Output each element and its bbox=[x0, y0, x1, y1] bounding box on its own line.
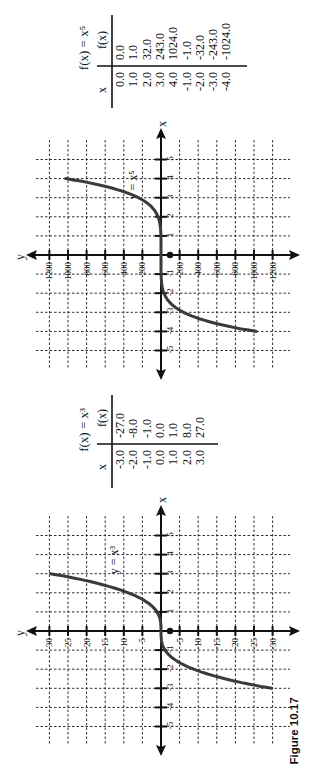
table-cell-fx: 1.0 bbox=[166, 423, 180, 438]
curve-label: y = x³ bbox=[107, 545, 121, 574]
table-cell-x: 3.0 bbox=[193, 450, 207, 465]
table-cell-fx: -1024.0 bbox=[219, 23, 233, 60]
table-cell-fx: -8.0 bbox=[126, 419, 140, 438]
x-tick-label: -1 bbox=[165, 269, 175, 277]
table-cell-fx: 1024.0 bbox=[166, 27, 180, 60]
table-header-x: x bbox=[95, 464, 109, 470]
table-cell-x: 1.0 bbox=[166, 450, 180, 465]
table-header-x: x bbox=[95, 87, 109, 93]
table-title: f(x) = x⁵ bbox=[76, 26, 91, 70]
table-cell-fx: -243.0 bbox=[206, 29, 220, 60]
y-tick-label: -200 bbox=[175, 262, 185, 279]
table-cell-x: -1.0 bbox=[180, 72, 194, 91]
x-tick-label: 3 bbox=[165, 570, 175, 575]
table-cell-fx: -27.0 bbox=[113, 413, 127, 438]
y-tick-label: 5 bbox=[137, 638, 147, 643]
figure-10-17: f(x) = x⁵ x f(x) 0.00.01.01.02.032.03.02… bbox=[0, 0, 317, 771]
table-cell-x: 0.0 bbox=[153, 450, 167, 465]
x-tick-label: 4 bbox=[165, 175, 175, 180]
table-cell-fx: 8.0 bbox=[180, 423, 194, 438]
x-tick-label: 2 bbox=[165, 214, 175, 219]
y-tick-label: -5 bbox=[175, 638, 185, 646]
chart-x3: 30252015105-5-10-15-20-25-30-5-4-3-2-112… bbox=[13, 497, 300, 756]
y-tick-label: -25 bbox=[249, 638, 259, 650]
figure-canvas: f(x) = x⁵ x f(x) 0.00.01.01.02.032.03.02… bbox=[0, 0, 317, 771]
table-cell-x: -2.0 bbox=[193, 72, 207, 91]
chart-x5: 12001000800600400200-200-400-600-800-100… bbox=[13, 121, 300, 380]
x-axis-label: x bbox=[155, 121, 169, 127]
table-cell-x: -2.0 bbox=[126, 450, 140, 469]
table-cell-x: 3.0 bbox=[153, 72, 167, 87]
x-tick-label: -5 bbox=[165, 721, 175, 729]
table-cell-x: 4.0 bbox=[166, 72, 180, 87]
y-tick-label: -15 bbox=[212, 638, 222, 650]
x-tick-label: -4 bbox=[165, 326, 175, 334]
y-axis-label: y bbox=[13, 630, 27, 636]
table-cell-fx: 32.0 bbox=[140, 39, 154, 60]
table-x3: f(x) = x³ x f(x) -3.0-27.0-2.0-8.0-1.0-1… bbox=[76, 395, 218, 488]
y-tick-label: 1000 bbox=[63, 262, 73, 281]
table-cell-x: 1.0 bbox=[126, 72, 140, 87]
table-cell-x: 0.0 bbox=[113, 72, 127, 87]
y-axis-label: y bbox=[13, 254, 27, 260]
table-cell-fx: 1.0 bbox=[126, 45, 140, 60]
x-tick-label: 3 bbox=[165, 194, 175, 199]
y-tick-label: 30 bbox=[44, 638, 54, 648]
x-tick-label: -4 bbox=[165, 702, 175, 710]
y-tick-label: 600 bbox=[100, 262, 110, 276]
y-tick-label: -800 bbox=[230, 262, 240, 279]
table-title: f(x) = x³ bbox=[76, 408, 91, 452]
origin-marker bbox=[167, 252, 173, 258]
x-tick-label: 1 bbox=[165, 233, 175, 238]
table-cell-fx: -1.0 bbox=[180, 41, 194, 60]
table-cell-x: -3.0 bbox=[206, 72, 220, 91]
y-tick-label: -600 bbox=[212, 262, 222, 279]
table-cell-x: -4.0 bbox=[219, 72, 233, 91]
y-tick-label: -10 bbox=[193, 638, 203, 650]
table-cell-fx: -1.0 bbox=[140, 419, 154, 438]
y-tick-label: -20 bbox=[230, 638, 240, 650]
y-tick-label: 400 bbox=[119, 262, 129, 276]
x-tick-label: -2 bbox=[165, 664, 175, 672]
table-cell-fx: 0.0 bbox=[153, 423, 167, 438]
y-tick-label: 200 bbox=[137, 262, 147, 276]
x-axis-label: x bbox=[155, 497, 169, 503]
origin-marker bbox=[167, 628, 173, 634]
y-tick-label: -1000 bbox=[249, 262, 259, 283]
figure-caption: Figure 10.17 bbox=[288, 697, 300, 764]
x-tick-label: -3 bbox=[165, 307, 175, 315]
x-tick-label: 5 bbox=[165, 156, 175, 161]
table-cell-x: 2.0 bbox=[180, 450, 194, 465]
x-tick-label: -3 bbox=[165, 683, 175, 691]
table-rows: 0.00.01.01.02.032.03.0243.04.01024.0-1.0… bbox=[113, 23, 233, 91]
x-tick-label: 2 bbox=[165, 590, 175, 595]
y-tick-label: 10 bbox=[119, 638, 129, 648]
y-tick-label: 1200 bbox=[44, 262, 54, 281]
table-cell-x: -3.0 bbox=[113, 450, 127, 469]
y-tick-label: 20 bbox=[82, 638, 92, 648]
table-x5: f(x) = x⁵ x f(x) 0.00.01.01.02.032.03.02… bbox=[76, 15, 247, 108]
x-tick-label: -2 bbox=[165, 288, 175, 296]
x-tick-label: -5 bbox=[165, 345, 175, 353]
table-cell-fx: 0.0 bbox=[113, 45, 127, 60]
y-tick-label: 15 bbox=[100, 638, 110, 648]
table-header-fx: f(x) bbox=[95, 409, 109, 427]
x-tick-label: 1 bbox=[165, 609, 175, 614]
table-header-fx: f(x) bbox=[95, 31, 109, 49]
y-tick-label: 25 bbox=[63, 638, 73, 648]
x-tick-label: 5 bbox=[165, 532, 175, 537]
y-tick-label: -400 bbox=[193, 262, 203, 279]
table-cell-fx: 27.0 bbox=[193, 417, 207, 438]
y-tick-label: 800 bbox=[82, 262, 92, 276]
table-cell-fx: -32.0 bbox=[193, 35, 207, 60]
table-cell-fx: 243.0 bbox=[153, 33, 167, 60]
x-tick-label: 4 bbox=[165, 551, 175, 556]
table-rows: -3.0-27.0-2.0-8.0-1.0-1.00.00.01.01.02.0… bbox=[113, 413, 207, 469]
y-tick-label: -1200 bbox=[268, 262, 278, 283]
table-cell-x: -1.0 bbox=[140, 450, 154, 469]
table-cell-x: 2.0 bbox=[140, 72, 154, 87]
y-tick-label: -30 bbox=[268, 638, 278, 650]
